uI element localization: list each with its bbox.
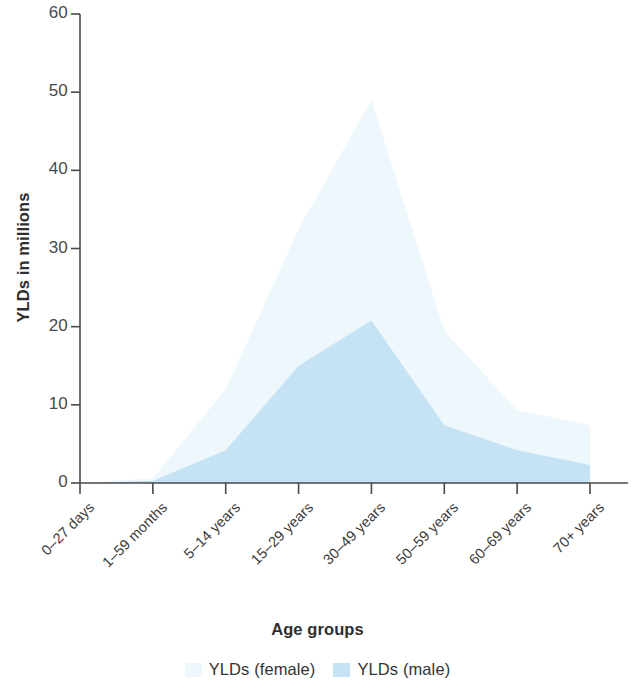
- area-series-male: [80, 320, 590, 483]
- y-axis-tick-label: 20: [16, 316, 68, 336]
- y-axis-tick-label: 10: [16, 394, 68, 414]
- plot-area: [0, 0, 635, 500]
- y-axis-tick-label: 60: [16, 3, 68, 23]
- legend-label: YLDs (male): [357, 660, 450, 679]
- x-axis-title: Age groups: [0, 620, 635, 639]
- legend-label: YLDs (female): [209, 660, 316, 679]
- y-axis-tick-label: 30: [16, 238, 68, 258]
- x-axis-ticks: [80, 483, 590, 494]
- area-series-group: [80, 100, 590, 483]
- legend-item-female[interactable]: YLDs (female): [185, 660, 316, 679]
- y-axis-tick-label: 50: [16, 81, 68, 101]
- legend-swatch-icon: [333, 663, 350, 677]
- chart-container: YLDs in millions 0102030405060 0–27 days…: [0, 0, 635, 691]
- legend-item-male[interactable]: YLDs (male): [333, 660, 450, 679]
- y-axis-tick-label: 40: [16, 159, 68, 179]
- y-axis-tick-label: 0: [16, 472, 68, 492]
- y-axis-ticks: [71, 14, 80, 483]
- chart-legend: YLDs (female)YLDs (male): [0, 660, 635, 679]
- legend-swatch-icon: [185, 663, 202, 677]
